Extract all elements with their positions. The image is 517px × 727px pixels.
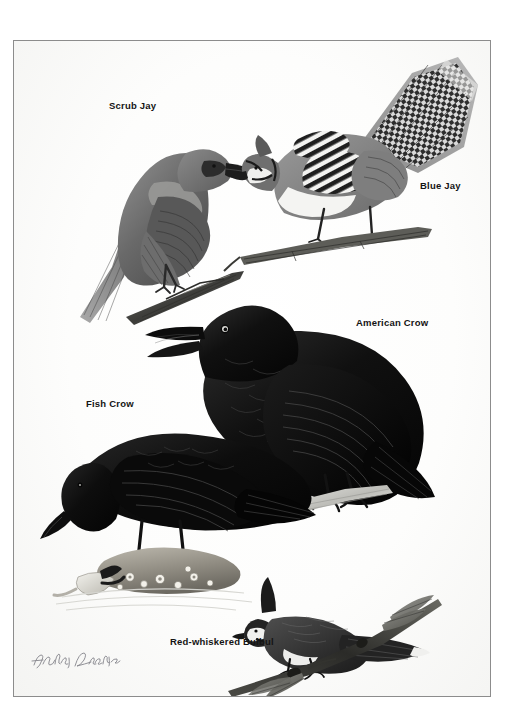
figure-red-whiskered-bulbul <box>232 573 482 693</box>
label-scrub-jay: Scrub Jay <box>109 101 156 111</box>
figure-blue-jay <box>232 51 482 266</box>
illustration-plate: Scrub Jay Blue Jay American Crow Fish Cr… <box>13 40 491 697</box>
label-blue-jay: Blue Jay <box>420 181 461 191</box>
label-fish-crow: Fish Crow <box>86 399 134 409</box>
label-american-crow: American Crow <box>356 318 428 328</box>
artist-signature <box>31 650 123 672</box>
label-red-whiskered-bulbul: Red-whiskered Bulbul <box>170 637 274 647</box>
